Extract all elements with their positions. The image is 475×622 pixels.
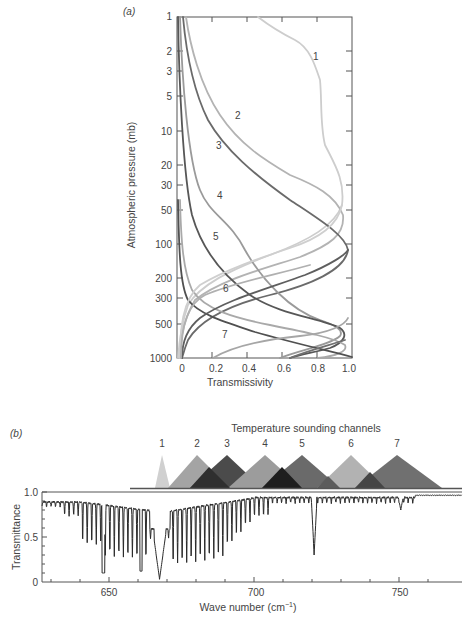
curve-3 bbox=[182, 17, 348, 358]
y-tick-label: 20 bbox=[161, 160, 173, 171]
channel-label-5: 5 bbox=[299, 438, 305, 449]
curve-label-4: 4 bbox=[217, 190, 223, 201]
curve-label-7: 7 bbox=[222, 329, 228, 340]
x-axis-title-text: Wave number (cm bbox=[200, 601, 286, 613]
transmittance-spectrum bbox=[42, 495, 462, 580]
panel-a-label: (a) bbox=[123, 6, 135, 17]
panel-b-x-ticks bbox=[51, 577, 428, 582]
x-tick-label: 0.2 bbox=[209, 363, 223, 374]
panel-b-x-axis-title: Wave number (cm−1) bbox=[200, 601, 297, 613]
curve-label-1: 1 bbox=[313, 51, 319, 62]
y-tick-label: 3 bbox=[166, 66, 172, 77]
channel-label-3: 3 bbox=[224, 438, 230, 449]
curve-label-3: 3 bbox=[216, 140, 222, 151]
panel-a: (a) bbox=[123, 6, 356, 388]
curve-label-2: 2 bbox=[235, 110, 241, 121]
y-tick-label: 10 bbox=[161, 126, 173, 137]
curve-5 bbox=[178, 17, 344, 358]
y-tick-label: 1 bbox=[166, 11, 172, 22]
panel-a-curves bbox=[178, 17, 352, 358]
x-tick-label: 700 bbox=[248, 587, 265, 598]
channel-triangles bbox=[155, 455, 442, 488]
channel-label-2: 2 bbox=[194, 438, 200, 449]
panel-b: (b) Temperature sounding channels 1 2 3 … bbox=[10, 422, 462, 613]
x-tick-label: 0.8 bbox=[311, 363, 325, 374]
y-tick-label: 5 bbox=[166, 91, 172, 102]
channel-label-4: 4 bbox=[262, 438, 268, 449]
y-tick-label: 2 bbox=[166, 46, 172, 57]
channels-title: Temperature sounding channels bbox=[231, 422, 380, 434]
x-tick-label: 0.4 bbox=[242, 363, 256, 374]
panel-b-label: (b) bbox=[10, 428, 22, 439]
x-tick-label: 650 bbox=[101, 587, 118, 598]
y-tick-label: 0.5 bbox=[24, 532, 38, 543]
panel-b-y-axis-title: Transmittance bbox=[10, 504, 22, 570]
x-tick-label: 0.6 bbox=[277, 363, 291, 374]
panel-a-y-axis-title: Atmospheric pressure (mb) bbox=[125, 122, 137, 249]
x-tick-label: 750 bbox=[392, 587, 409, 598]
panel-a-y-tick-labels: 1 2 3 5 10 20 30 50 100 200 300 500 1000 bbox=[150, 11, 173, 364]
y-tick-label: 0 bbox=[32, 577, 38, 588]
y-tick-label: 30 bbox=[161, 180, 173, 191]
panel-a-x-tick-labels: 0 0.2 0.4 0.6 0.8 1.0 bbox=[179, 363, 356, 374]
panel-a-x-axis-title: Transmissivity bbox=[207, 376, 274, 388]
y-tick-label: 300 bbox=[155, 293, 172, 304]
curve-2 bbox=[180, 17, 343, 358]
y-tick-label: 100 bbox=[155, 239, 172, 250]
x-axis-title-superscript: −1 bbox=[285, 601, 293, 608]
x-tick-label: 1.0 bbox=[342, 363, 356, 374]
figure: (a) bbox=[0, 0, 475, 622]
channel-label-6: 6 bbox=[348, 438, 354, 449]
x-tick-label: 0 bbox=[179, 363, 185, 374]
panel-b-x-tick-labels: 650 700 750 bbox=[101, 587, 409, 598]
y-tick-label: 50 bbox=[161, 205, 173, 216]
panel-a-frame bbox=[177, 17, 352, 358]
channel-labels: 1 2 3 4 5 6 7 bbox=[159, 438, 400, 449]
channel-label-7: 7 bbox=[394, 438, 400, 449]
curve-label-6: 6 bbox=[223, 283, 229, 294]
panel-b-y-tick-labels: 0 0.5 1.0 bbox=[24, 487, 38, 588]
y-tick-label: 200 bbox=[155, 273, 172, 284]
channel-1-triangle bbox=[155, 455, 170, 488]
y-tick-label: 500 bbox=[155, 319, 172, 330]
y-tick-label: 1000 bbox=[150, 353, 173, 364]
channel-label-1: 1 bbox=[159, 438, 165, 449]
y-tick-label: 1.0 bbox=[24, 487, 38, 498]
curve-label-5: 5 bbox=[213, 231, 219, 242]
x-axis-title-close: ) bbox=[293, 601, 297, 613]
